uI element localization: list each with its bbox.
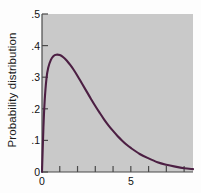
plot-area xyxy=(0,0,201,193)
plot-background xyxy=(42,14,193,172)
probability-distribution-chart: Probability distribution .5.4.3.2.10 05 xyxy=(0,0,201,193)
